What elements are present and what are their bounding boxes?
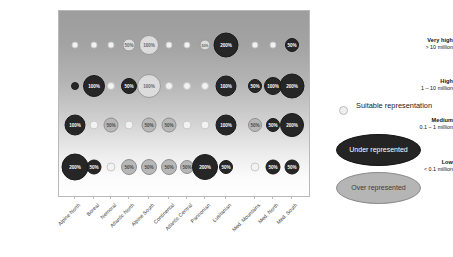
y-axis-label-row-1: High1 – 10 million <box>397 78 453 92</box>
bubble-alpine-south-row-1: 100% <box>137 74 161 98</box>
y-axis-label-range: 1 – 10 million <box>397 85 453 92</box>
bubble-alpine-north-row-0 <box>72 42 79 49</box>
bubble-alpine-north-row-3: 200% <box>62 154 89 181</box>
bubble-nemoral-row-2: 50% <box>104 118 119 133</box>
bubble-alpine-south-row-3: 50% <box>141 159 157 175</box>
bubble-boreal-row-0 <box>91 42 98 49</box>
x-axis-tick-11 <box>291 197 292 199</box>
bubble-continental-row-3: 50% <box>161 159 177 175</box>
bubble-atlantic-central-row-1 <box>183 82 191 90</box>
bubble-med-mountains-row-2: 50% <box>248 118 262 132</box>
y-axis-label-title: High <box>397 78 453 85</box>
bubble-atlantic-north-row-0: 50% <box>123 39 136 52</box>
bubble-lusitanian-row-1: 100% <box>216 76 237 97</box>
y-axis-label-title: Very high <box>397 37 453 44</box>
bubble-nemoral-row-0 <box>108 42 115 49</box>
bubble-lusitanian-row-0: 200% <box>214 33 239 58</box>
bubble-nemoral-row-1 <box>107 82 115 90</box>
bubble-med-south-row-3: 50% <box>285 160 300 175</box>
x-axis-tick-0 <box>74 197 75 199</box>
bubble-atlantic-north-row-3: 50% <box>121 159 137 175</box>
legend: Suitable representation Under represente… <box>330 96 453 201</box>
bubble-boreal-row-3: 50% <box>87 160 102 175</box>
bubble-med-mountains-row-3 <box>251 163 260 172</box>
x-axis-tick-10 <box>272 197 273 199</box>
x-axis-tick-8 <box>225 197 226 199</box>
x-axis-labels: Alpine NorthBorealNemoralAtlantic NorthA… <box>58 199 310 257</box>
bubble-pannonian-row-2 <box>201 121 210 130</box>
legend-under-swatch: Under represented <box>336 134 421 166</box>
bubble-continental-row-0 <box>166 42 173 49</box>
bubble-med-mountains-row-0 <box>252 42 259 49</box>
x-axis-tick-1 <box>93 197 94 199</box>
bubble-med-south-row-0: 50% <box>285 38 299 52</box>
bubble-med-mountains-row-1: 50% <box>248 79 262 93</box>
bubble-pannonian-row-3: 200% <box>192 154 218 180</box>
bubble-boreal-row-1: 100% <box>83 75 105 97</box>
bubble-atlantic-north-row-2 <box>125 121 134 130</box>
legend-suitable-label: Suitable representation <box>356 101 451 111</box>
x-axis-tick-2 <box>110 197 111 199</box>
x-axis-label-boreal: Boreal <box>85 202 100 217</box>
bubble-med-south-row-1: 200% <box>280 74 305 99</box>
bubble-atlantic-central-row-2 <box>183 121 192 130</box>
x-axis-label-alpine-north: Alpine North <box>57 202 82 227</box>
y-axis-label-range: > 10 million <box>397 44 453 51</box>
x-axis-label-lusitanian: Lusitanian <box>211 202 232 223</box>
bubble-med-north-row-0 <box>270 42 277 49</box>
bubble-alpine-north-row-2: 100% <box>65 115 86 136</box>
bubble-alpine-south-row-0: 100% <box>139 35 159 55</box>
bubble-med-north-row-3: 50% <box>266 160 281 175</box>
bubble-pannonian-row-0: 50% <box>200 40 211 51</box>
bubble-med-south-row-2: 200% <box>280 113 304 137</box>
bubble-lusitanian-row-2: 100% <box>216 115 237 136</box>
plot-area: 50%100%50%200%50%100%50%100%100%50%100%2… <box>58 10 310 197</box>
bubble-continental-row-2: 50% <box>162 118 177 133</box>
x-axis-tick-5 <box>168 197 169 199</box>
bubble-alpine-south-row-2: 50% <box>142 118 157 133</box>
bubble-boreal-row-2 <box>90 121 99 130</box>
bubble-alpine-north-row-1 <box>71 82 79 90</box>
bubble-continental-row-1 <box>165 82 173 90</box>
bubble-atlantic-north-row-1: 50% <box>121 78 137 94</box>
x-axis-tick-4 <box>148 197 149 199</box>
legend-over-swatch: Over represented <box>336 172 421 204</box>
bubble-lusitanian-row-3: 50% <box>219 160 233 174</box>
legend-suitable-icon <box>339 106 348 115</box>
x-axis-tick-7 <box>204 197 205 199</box>
bubble-med-north-row-2: 50% <box>266 118 280 132</box>
bubble-pannonian-row-1 <box>201 82 209 90</box>
bubble-nemoral-row-3 <box>107 163 116 172</box>
x-axis-tick-3 <box>128 197 129 199</box>
x-axis-tick-6 <box>186 197 187 199</box>
x-axis-tick-9 <box>254 197 255 199</box>
y-axis-label-row-0: Very high> 10 million <box>397 37 453 51</box>
bubble-atlantic-central-row-0 <box>184 42 191 49</box>
bubble-chart-figure: Very high> 10 millionHigh1 – 10 millionM… <box>0 0 453 257</box>
x-axis-label-med-mountains: Med. Mountains <box>231 202 262 233</box>
